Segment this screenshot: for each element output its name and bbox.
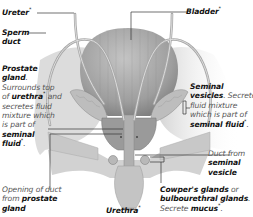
punct: . bbox=[220, 204, 222, 213]
sperm-duct-line2: duct bbox=[2, 37, 21, 46]
vesicles-desc3: which is part of bbox=[190, 110, 247, 119]
opening-line2a: from bbox=[2, 194, 22, 203]
label-duct-from-vesicle: Duct from seminal vesicle bbox=[208, 149, 245, 177]
glossary-marker: * bbox=[219, 5, 221, 11]
vesicles-name2: vesicles bbox=[190, 91, 223, 100]
label-sperm-duct: Sperm duct bbox=[2, 28, 29, 47]
prostate-desc7: fluid bbox=[2, 139, 21, 148]
punct: . bbox=[246, 120, 248, 129]
cowpers-name1: Cowper's glands bbox=[160, 185, 229, 194]
label-prostate-opening: Opening of duct from prostate gland bbox=[2, 185, 61, 213]
bladder-name: Bladder bbox=[186, 7, 219, 16]
duct-line2: seminal bbox=[208, 158, 241, 167]
anatomy-diagram: Ureter* Bladder* Sperm duct Prostate gla… bbox=[0, 0, 253, 217]
prostate-name1: Prostate bbox=[2, 64, 38, 73]
label-cowpers-glands: Cowper's glands or bulbourethral glands.… bbox=[160, 185, 250, 213]
label-urethra: Urethra* bbox=[106, 206, 141, 215]
cowpers-mucus-term: mucus bbox=[191, 204, 218, 213]
vesicles-desc4: seminal fluid bbox=[190, 120, 244, 129]
duct-line3: vesicle bbox=[208, 168, 237, 177]
punct: . bbox=[248, 194, 250, 203]
label-ureter: Ureter* bbox=[2, 8, 31, 17]
sperm-duct-line1: Sperm bbox=[2, 28, 29, 37]
prostate-urethra-term: urethra bbox=[11, 92, 43, 101]
opening-prostate-term: prostate bbox=[22, 194, 58, 203]
glossary-marker: * bbox=[138, 204, 140, 210]
prostate-desc3: secretes fluid bbox=[2, 102, 52, 111]
vesicles-name1: Seminal bbox=[190, 82, 224, 91]
label-seminal-vesicles: Seminal vesicles. Secrete fluid mixture … bbox=[190, 82, 253, 129]
duct-line1: Duct from bbox=[208, 149, 245, 158]
punct: . bbox=[26, 73, 28, 82]
vesicles-desc1: Secrete bbox=[226, 91, 253, 100]
cowpers-or: or bbox=[229, 185, 239, 194]
urethra-name: Urethra bbox=[106, 206, 138, 215]
prostate-desc4: mixture which bbox=[2, 111, 55, 120]
prostate-desc6: seminal bbox=[2, 130, 35, 139]
opening-line3: gland bbox=[2, 204, 26, 213]
label-prostate-gland: Prostate gland. Surrounds top of urethra… bbox=[2, 64, 62, 149]
glossary-marker: * bbox=[29, 6, 31, 12]
cowpers-desc1: Secrete bbox=[160, 204, 191, 213]
prostate-desc1: Surrounds top bbox=[2, 83, 54, 92]
ureter-name: Ureter bbox=[2, 8, 29, 17]
label-bladder: Bladder* bbox=[186, 7, 221, 16]
prostate-desc5: is part of bbox=[2, 120, 35, 129]
opening-line1: Opening of duct bbox=[2, 185, 61, 194]
vesicles-desc2: fluid mixture bbox=[190, 101, 237, 110]
punct: . bbox=[23, 139, 25, 148]
cowpers-name2: bulbourethral glands bbox=[160, 194, 248, 203]
prostate-desc2c: and bbox=[45, 92, 61, 101]
prostate-name2: gland bbox=[2, 73, 26, 82]
